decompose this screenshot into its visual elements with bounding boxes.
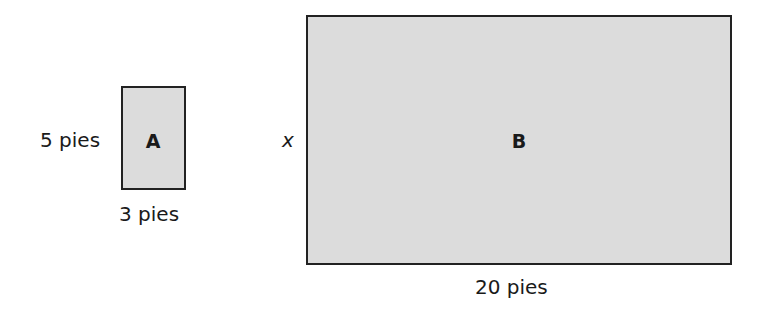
rectangle-b-label: B — [512, 132, 526, 151]
diagram: A 5 pies 3 pies B x 20 pies — [0, 0, 762, 318]
rectangle-a-height-label: 5 pies — [40, 130, 100, 150]
rectangle-b-height-label: x — [282, 130, 294, 150]
rectangle-a-width-label: 3 pies — [119, 204, 179, 224]
rectangle-a-label: A — [146, 132, 161, 151]
rectangle-b-width-label: 20 pies — [475, 277, 548, 297]
